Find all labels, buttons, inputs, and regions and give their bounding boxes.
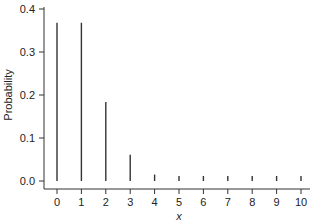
x-tick-label: 10 [295, 196, 307, 208]
x-tick-label: 3 [127, 196, 133, 208]
y-tick-label: 0.3 [20, 46, 35, 58]
x-tick-label: 0 [54, 196, 60, 208]
y-tick-label: 0.2 [20, 89, 35, 101]
x-tick-label: 6 [200, 196, 206, 208]
y-tick-label: 0.0 [20, 175, 35, 187]
axes: 0.00.10.20.30.4 012345678910 [20, 3, 310, 208]
y-tick-label: 0.4 [20, 3, 35, 15]
y-tick-label: 0.1 [20, 132, 35, 144]
x-tick-label: 7 [225, 196, 231, 208]
x-tick-label: 4 [152, 196, 158, 208]
y-ticks: 0.00.10.20.30.4 [20, 3, 44, 187]
x-tick-label: 5 [176, 196, 182, 208]
x-tick-label: 9 [274, 196, 280, 208]
x-tick-label: 1 [78, 196, 84, 208]
bars [57, 23, 301, 181]
x-tick-label: 2 [103, 196, 109, 208]
y-axis-label: Probability [2, 69, 14, 121]
x-tick-label: 8 [249, 196, 255, 208]
x-ticks: 012345678910 [54, 189, 307, 208]
x-axis-label: x [175, 210, 182, 222]
probability-spike-chart: 0.00.10.20.30.4 012345678910 Probability… [0, 0, 312, 224]
